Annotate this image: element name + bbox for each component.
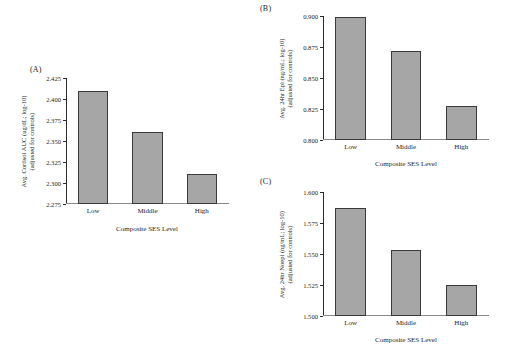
plot-area-a: 2.2752.3002.3252.3502.3752.4002.425LowMi…: [66, 78, 229, 204]
y-tick-c-2: [320, 254, 323, 255]
y-axis-title-a-line1: Avg. Cortisol AUC (ug/dL; log-10): [20, 95, 28, 187]
y-tick-a-6: [63, 78, 66, 79]
x-category-label-b-2: High: [454, 143, 468, 151]
x-category-label-c-2: High: [454, 319, 468, 327]
y-tick-b-3: [320, 47, 323, 48]
x-category-label-a-1: Middle: [137, 207, 157, 215]
figure-root: (A) Avg. Cortisol AUC (ug/dL; log-10) (a…: [0, 0, 513, 349]
bar-b-high: [446, 106, 477, 140]
y-axis-title-a: Avg. Cortisol AUC (ug/dL; log-10) (adjus…: [20, 95, 35, 187]
y-tick-label-b-0: 0.800: [303, 137, 318, 144]
bar-a-low: [78, 91, 108, 204]
y-tick-a-0: [63, 204, 66, 205]
y-tick-label-b-4: 0.900: [303, 13, 318, 20]
x-category-label-a-2: High: [195, 207, 209, 215]
y-tick-label-c-1: 1.525: [303, 282, 318, 289]
bar-a-middle: [132, 132, 162, 204]
y-axis-title-b-line1: Avg. 24hr Epi (ng/mL; log-10): [278, 38, 286, 118]
y-tick-label-a-1: 2.300: [46, 180, 61, 187]
y-tick-label-a-2: 2.325: [46, 159, 61, 166]
y-tick-label-a-0: 2.275: [46, 201, 61, 208]
panel-c: (C) Avg. 24hr Noepi (ng/mL; log-10) (adj…: [255, 172, 513, 349]
panel-letter-a: (A): [30, 65, 42, 74]
y-tick-c-1: [320, 285, 323, 286]
y-tick-label-c-2: 1.550: [303, 251, 318, 258]
x-category-label-b-1: Middle: [396, 143, 416, 151]
x-axis-title-a: Composite SES Level: [116, 225, 178, 233]
bar-c-middle: [391, 250, 422, 316]
x-category-label-c-1: Middle: [396, 319, 416, 327]
panel-letter-b: (B): [260, 4, 271, 13]
y-tick-label-a-3: 2.350: [46, 138, 61, 145]
y-tick-label-a-4: 2.375: [46, 117, 61, 124]
x-axis-title-c: Composite SES Level: [375, 336, 437, 344]
y-axis-title-b: Avg. 24hr Epi (ng/mL; log-10) (adjusted …: [278, 38, 293, 118]
y-tick-b-2: [320, 78, 323, 79]
y-tick-label-a-5: 2.400: [46, 96, 61, 103]
y-axis-title-b-line2: (adjusted for controls): [285, 38, 293, 118]
bar-b-middle: [391, 51, 422, 140]
y-tick-b-4: [320, 16, 323, 17]
y-tick-a-3: [63, 141, 66, 142]
panel-b: (B) Avg. 24hr Epi (ng/mL; log-10) (adjus…: [255, 0, 513, 175]
y-tick-c-0: [320, 316, 323, 317]
plot-area-b: 0.8000.8250.8500.8750.900LowMiddleHigh: [323, 16, 489, 140]
y-tick-label-a-6: 2.425: [46, 75, 61, 82]
bar-b-low: [335, 17, 366, 140]
y-tick-label-c-3: 1.575: [303, 220, 318, 227]
plot-area-c: 1.5001.5251.5501.5751.600LowMiddleHigh: [323, 192, 489, 316]
panel-letter-c: (C): [260, 177, 271, 186]
y-tick-label-b-3: 0.875: [303, 44, 318, 51]
y-axis-title-c-line2: (adjusted for controls): [285, 211, 293, 298]
y-tick-a-5: [63, 99, 66, 100]
y-tick-label-c-0: 1.500: [303, 313, 318, 320]
bar-c-low: [335, 208, 366, 316]
bar-c-high: [446, 285, 477, 316]
y-tick-label-b-1: 0.825: [303, 106, 318, 113]
y-tick-c-4: [320, 192, 323, 193]
y-tick-b-0: [320, 140, 323, 141]
x-category-label-c-0: Low: [344, 319, 357, 327]
y-axis-line-b: [323, 16, 324, 140]
x-axis-title-b: Composite SES Level: [375, 160, 437, 168]
y-axis-line-a: [66, 78, 67, 204]
panel-a: (A) Avg. Cortisol AUC (ug/dL; log-10) (a…: [0, 55, 255, 235]
y-axis-title-c: Avg. 24hr Noepi (ng/mL; log-10) (adjuste…: [277, 211, 292, 298]
y-axis-line-c: [323, 192, 324, 316]
y-tick-label-c-4: 1.600: [303, 189, 318, 196]
y-tick-label-b-2: 0.850: [303, 75, 318, 82]
y-tick-a-2: [63, 162, 66, 163]
y-tick-a-1: [63, 183, 66, 184]
x-category-label-a-0: Low: [87, 207, 100, 215]
y-axis-title-c-line1: Avg. 24hr Noepi (ng/mL; log-10): [277, 211, 285, 298]
y-tick-b-1: [320, 109, 323, 110]
x-category-label-b-0: Low: [344, 143, 357, 151]
y-tick-c-3: [320, 223, 323, 224]
y-axis-title-a-line2: (adjusted for controls): [28, 95, 36, 187]
bar-a-high: [187, 174, 217, 204]
y-tick-a-4: [63, 120, 66, 121]
